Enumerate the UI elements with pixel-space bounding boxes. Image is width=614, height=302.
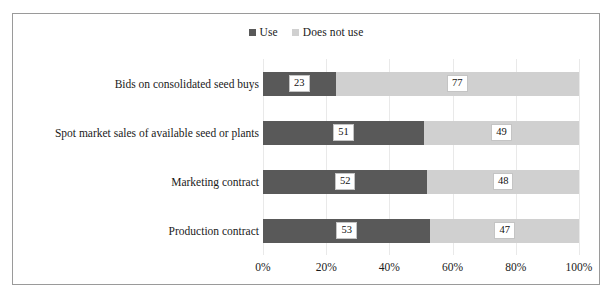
bar-segment-does-not-use[interactable]: 49	[424, 121, 579, 145]
category-label: Production contract	[19, 219, 263, 243]
bar-segment-does-not-use[interactable]: 48	[427, 170, 579, 194]
legend-item-use[interactable]: Use	[249, 27, 278, 39]
bar-segment-does-not-use[interactable]: 47	[430, 219, 579, 243]
category-label: Marketing contract	[19, 170, 263, 194]
bar-row[interactable]: 5347	[263, 219, 579, 243]
axis-tick-label: 40%	[379, 261, 400, 273]
bar-segment-use[interactable]: 51	[263, 121, 424, 145]
bar-row[interactable]: 2377	[263, 72, 579, 96]
bar-row[interactable]: 5149	[263, 121, 579, 145]
chart-legend: Use Does not use	[13, 27, 599, 39]
legend-swatch-does-not-use	[292, 29, 299, 36]
legend-swatch-use	[249, 29, 256, 36]
bar-row[interactable]: 5248	[263, 170, 579, 194]
chart-frame: Use Does not use Bids on consolidated se…	[12, 13, 600, 285]
axis-tick-label: 20%	[316, 261, 337, 273]
bar-segment-use[interactable]: 53	[263, 219, 430, 243]
bar-value-label: 77	[447, 75, 468, 93]
bar-value-label: 52	[335, 173, 356, 191]
gridline-100pct	[579, 59, 580, 255]
plot-area: 2377514952485347	[263, 59, 579, 255]
bar-value-label: 49	[491, 124, 512, 142]
bar-value-label: 48	[493, 173, 514, 191]
legend-label-does-not-use: Does not use	[303, 27, 364, 39]
axis-tick-label: 60%	[442, 261, 463, 273]
bar-segment-use[interactable]: 52	[263, 170, 427, 194]
bar-segment-use[interactable]: 23	[263, 72, 336, 96]
axis-tick-label: 0%	[255, 261, 270, 273]
bar-value-label: 51	[333, 124, 354, 142]
legend-item-does-not-use[interactable]: Does not use	[292, 27, 364, 39]
axis-tick-label: 80%	[505, 261, 526, 273]
axis-tick-label: 100%	[566, 261, 593, 273]
category-label: Bids on consolidated seed buys	[19, 72, 263, 96]
category-axis: Bids on consolidated seed buysSpot marke…	[19, 59, 263, 255]
plot-wrapper: Bids on consolidated seed buysSpot marke…	[13, 59, 601, 285]
bar-value-label: 47	[494, 222, 515, 240]
bar-value-label: 23	[289, 75, 310, 93]
value-axis: 0%20%40%60%80%100%	[263, 255, 579, 281]
category-label: Spot market sales of available seed or p…	[19, 121, 263, 145]
bar-segment-does-not-use[interactable]: 77	[336, 72, 579, 96]
bar-value-label: 53	[336, 222, 357, 240]
legend-label-use: Use	[260, 27, 278, 39]
